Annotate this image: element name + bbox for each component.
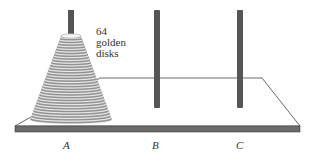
peg-c <box>237 10 243 108</box>
top-disk <box>61 34 81 38</box>
tower-of-hanoi-diagram: 64 golden disks A B C <box>0 0 310 161</box>
diagram-canvas: 64 golden disks A B C <box>0 0 310 161</box>
peg-label-a: A <box>62 139 70 151</box>
board-front <box>15 126 300 132</box>
peg-label-b: B <box>152 139 159 151</box>
annotation-line-3: disks <box>96 47 119 59</box>
peg-label-c: C <box>236 139 244 151</box>
peg-b <box>154 10 160 108</box>
